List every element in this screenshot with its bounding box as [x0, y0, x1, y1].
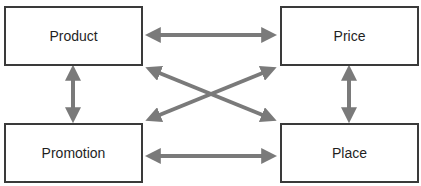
arrow-product-place: [152, 70, 270, 118]
node-price-label: Price: [334, 28, 366, 44]
arrow-promotion-price: [152, 70, 270, 118]
node-price: Price: [280, 6, 419, 66]
node-place-label: Place: [332, 145, 367, 161]
node-product-label: Product: [49, 28, 97, 44]
node-promotion: Promotion: [4, 123, 143, 183]
node-place: Place: [280, 123, 419, 183]
node-product: Product: [4, 6, 143, 66]
node-promotion-label: Promotion: [42, 145, 106, 161]
